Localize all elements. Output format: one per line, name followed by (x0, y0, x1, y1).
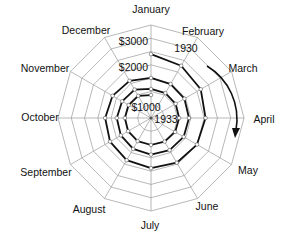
data-point (111, 94, 115, 98)
data-point (108, 140, 112, 144)
month-label-october: October (21, 111, 59, 123)
data-point (115, 116, 119, 120)
month-label-april: April (253, 113, 274, 125)
month-label-july: July (141, 219, 160, 231)
data-point (149, 166, 153, 170)
data-point (149, 153, 153, 157)
data-point (131, 147, 135, 151)
tick-label-3000: $3000 (119, 35, 148, 47)
tick-label-1000: $1000 (131, 101, 160, 113)
year-label-end: 1933 (154, 113, 178, 125)
month-label-august: August (73, 203, 106, 215)
data-point (103, 116, 107, 120)
data-point (133, 88, 137, 92)
data-point (175, 161, 179, 165)
data-point (183, 97, 187, 101)
month-label-november: November (21, 62, 70, 74)
data-point (120, 100, 124, 104)
data-point (199, 87, 203, 91)
data-point (177, 116, 181, 120)
data-point (168, 148, 172, 152)
month-label-march: March (228, 62, 257, 74)
data-point (136, 94, 140, 98)
center-point (149, 116, 152, 119)
data-point (136, 139, 140, 143)
data-point (149, 143, 153, 147)
data-point (119, 134, 123, 138)
data-point (149, 76, 153, 80)
spiral-chart: January February March April May June Ju… (0, 0, 288, 237)
month-label-january: January (132, 3, 170, 15)
data-point (149, 87, 153, 91)
data-point (123, 116, 127, 120)
month-label-may: May (238, 164, 259, 176)
data-point (204, 116, 208, 120)
data-point (163, 140, 167, 144)
tick-label-2000: $2000 (119, 61, 148, 73)
year-label-start: 1930 (174, 42, 198, 54)
data-point (128, 79, 132, 83)
data-point (125, 158, 129, 162)
month-label-september: September (20, 166, 72, 178)
data-point (173, 130, 177, 134)
month-label-june: June (196, 200, 219, 212)
data-point (149, 93, 153, 97)
data-point (169, 82, 173, 86)
data-point (126, 129, 130, 133)
data-point (195, 143, 199, 147)
data-point (187, 116, 191, 120)
data-point (179, 64, 183, 68)
data-point (164, 91, 168, 95)
data-point (182, 135, 186, 139)
month-label-december: December (62, 24, 111, 36)
data-point (127, 103, 131, 107)
data-point (174, 102, 178, 106)
data-point (149, 52, 153, 56)
month-label-february: February (182, 25, 225, 37)
